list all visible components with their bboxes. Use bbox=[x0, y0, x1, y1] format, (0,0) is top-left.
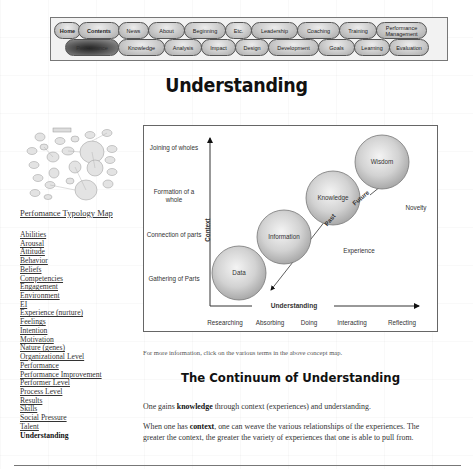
topic-link[interactable]: Behavior bbox=[20, 256, 48, 265]
bold-term-knowledge: knowledge bbox=[177, 402, 213, 411]
nav-news[interactable]: News bbox=[118, 22, 149, 39]
experience-label: Experience bbox=[337, 247, 381, 255]
text: through context (experiences) and unders… bbox=[213, 402, 371, 411]
nav-about[interactable]: About bbox=[148, 22, 185, 39]
x-level-researching: Researching bbox=[200, 319, 250, 327]
bold-term-context: context bbox=[190, 422, 215, 431]
x-axis-label: Understanding bbox=[254, 302, 334, 310]
sphere-wisdom[interactable]: Wisdom bbox=[362, 158, 402, 166]
x-level-interacting: Interacting bbox=[330, 319, 374, 327]
topic-link[interactable]: Performer Level bbox=[20, 378, 70, 387]
y-level-gathering: Gathering of Parts bbox=[148, 275, 200, 283]
topic-link[interactable]: Abilities bbox=[20, 230, 46, 239]
typology-map-thumbnail[interactable] bbox=[20, 125, 120, 201]
topic-link[interactable]: Performance Improvement bbox=[20, 370, 102, 379]
nav-impact[interactable]: Impact bbox=[201, 39, 236, 56]
topic-link[interactable]: Process Level bbox=[20, 387, 62, 396]
nav-evaluation[interactable]: Evaluation bbox=[389, 39, 429, 56]
topic-link[interactable]: Talent bbox=[20, 422, 39, 431]
nav-beginning[interactable]: Beginning bbox=[184, 22, 226, 39]
topic-link[interactable]: Skills bbox=[20, 404, 37, 413]
topic-link[interactable]: EI bbox=[20, 300, 27, 309]
topic-link[interactable]: Nature (genes) bbox=[20, 343, 65, 352]
topic-link[interactable]: Arousal bbox=[20, 239, 44, 248]
nav-home[interactable]: Home bbox=[54, 22, 81, 39]
nav-training[interactable]: Training bbox=[339, 22, 377, 39]
topic-link[interactable]: Environment bbox=[20, 291, 60, 300]
topic-link[interactable]: Performance bbox=[20, 361, 59, 370]
nav-design[interactable]: Design bbox=[235, 39, 269, 56]
topic-link[interactable]: Social Pressure bbox=[20, 413, 67, 422]
nav-performance[interactable]: Performance bbox=[65, 39, 119, 56]
y-level-formation: Formation of a whole bbox=[146, 188, 202, 204]
nav-development[interactable]: Development bbox=[268, 39, 319, 56]
section-title: The Continuum of Understanding bbox=[158, 370, 424, 385]
sphere-information[interactable]: Information bbox=[259, 233, 309, 241]
text: When one has bbox=[143, 422, 190, 431]
nav-performance-management[interactable]: Performance Management bbox=[376, 22, 427, 39]
x-level-reflecting: Reflecting bbox=[380, 319, 424, 327]
topic-link[interactable]: Intention bbox=[20, 326, 47, 335]
concept-map-caption: For more information, click on the vario… bbox=[143, 349, 342, 356]
top-navigation: Home Contents News About Beginning Etc. … bbox=[50, 17, 448, 61]
paragraph-context: When one has context, one can weave the … bbox=[143, 422, 443, 443]
typology-map-link[interactable]: Perfomance Typology Map bbox=[20, 208, 113, 218]
nav-analysis[interactable]: Analysis bbox=[164, 39, 202, 56]
novelty-label: Novelty bbox=[399, 204, 433, 212]
current-topic: Understanding bbox=[20, 432, 102, 441]
understanding-concept-map: Joining of wholes Formation of a whole C… bbox=[143, 125, 438, 332]
nav-coaching[interactable]: Coaching bbox=[297, 22, 340, 39]
nav-leadership[interactable]: Leadership bbox=[251, 22, 298, 39]
topic-link[interactable]: Motivation bbox=[20, 335, 54, 344]
nav-goals[interactable]: Goals bbox=[318, 39, 355, 56]
topic-link[interactable]: Organizational Level bbox=[20, 352, 84, 361]
y-axis-label: Context bbox=[204, 210, 212, 250]
topic-link[interactable]: Results bbox=[20, 396, 42, 405]
topic-link[interactable]: Feelings bbox=[20, 317, 46, 326]
sphere-knowledge[interactable]: Knowledge bbox=[310, 194, 356, 202]
nav-learning[interactable]: Learning bbox=[354, 39, 390, 56]
sphere-data[interactable]: Data bbox=[219, 269, 259, 277]
text: One gains bbox=[143, 402, 177, 411]
y-level-connection: Connection of parts bbox=[146, 231, 202, 239]
x-level-doing: Doing bbox=[292, 319, 326, 327]
topic-list: Abilities Arousal Attitude Behavior Beli… bbox=[20, 231, 102, 440]
topic-link[interactable]: Experience (nurture) bbox=[20, 308, 83, 317]
topic-link[interactable]: Beliefs bbox=[20, 265, 42, 274]
bottom-divider bbox=[14, 465, 461, 466]
y-level-joining: Joining of wholes bbox=[148, 144, 200, 152]
topic-link[interactable]: Attitude bbox=[20, 247, 45, 256]
x-level-absorbing: Absorbing bbox=[250, 319, 290, 327]
topic-link[interactable]: Competencies bbox=[20, 274, 63, 283]
topic-link[interactable]: Engagement bbox=[20, 282, 58, 291]
page-title: Understanding bbox=[19, 74, 454, 96]
paragraph-knowledge: One gains knowledge through context (exp… bbox=[143, 402, 443, 413]
nav-etc[interactable]: Etc. bbox=[225, 22, 252, 39]
nav-knowledge[interactable]: Knowledge bbox=[118, 39, 165, 56]
nav-contents[interactable]: Contents bbox=[78, 22, 120, 39]
